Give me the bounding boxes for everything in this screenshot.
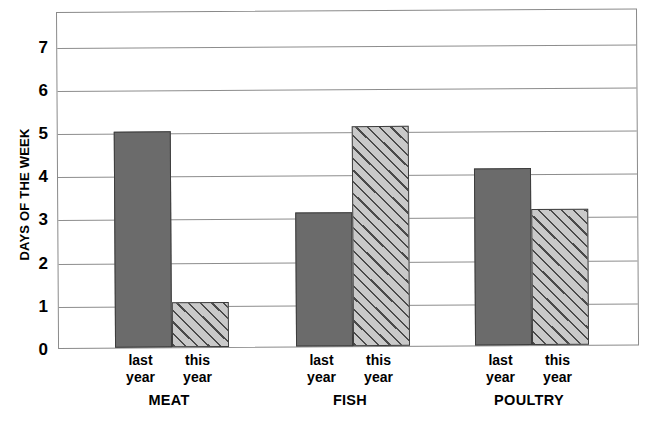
- x-label-line1: last: [472, 352, 529, 369]
- bar-poultry-this-year: [531, 209, 589, 345]
- x-label-line2: year: [472, 369, 529, 386]
- gridline-6: [57, 87, 636, 92]
- x-label-fish-this: thisyear: [350, 352, 407, 385]
- x-label-line2: year: [350, 369, 407, 386]
- x-label-line2: year: [169, 369, 226, 386]
- bar-meat-this-year: [172, 302, 229, 348]
- x-label-line2: year: [293, 369, 350, 386]
- plot-inner: [57, 9, 638, 348]
- y-tick-7: 7: [22, 38, 48, 55]
- x-label-line2: year: [529, 369, 586, 386]
- x-label-line1: last: [293, 352, 350, 369]
- y-tick-2: 2: [22, 254, 48, 271]
- bar-poultry-last-year: [474, 168, 532, 345]
- y-axis-tick-labels: 7 6 5 4 3 2 1 0: [22, 0, 48, 430]
- x-label-line1: last: [112, 352, 169, 369]
- y-tick-4: 4: [22, 168, 48, 185]
- x-label-line2: year: [112, 369, 169, 386]
- group-label-poultry: POULTRY: [472, 392, 586, 408]
- y-tick-6: 6: [22, 81, 48, 98]
- x-label-fish-last: lastyear: [293, 352, 350, 385]
- bar-chart: DAYS OF THE WEEK 7 6 5 4 3 2 1 0 lastyea…: [0, 0, 651, 430]
- group-label-fish: FISH: [293, 392, 407, 408]
- x-label-line1: this: [350, 352, 407, 369]
- x-label-line1: this: [529, 352, 586, 369]
- y-tick-0: 0: [22, 341, 48, 358]
- bar-fish-last-year: [295, 212, 353, 346]
- x-label-line1: this: [169, 352, 226, 369]
- x-label-meat-this: thisyear: [169, 352, 226, 385]
- group-label-meat: MEAT: [112, 392, 226, 408]
- plot-area: [56, 8, 639, 349]
- gridline-7: [57, 44, 636, 49]
- x-label-poultry-this: thisyear: [529, 352, 586, 385]
- x-axis-labels: lastyearthisyearlastyearthisyearlastyear…: [56, 352, 637, 430]
- y-tick-1: 1: [22, 297, 48, 314]
- bar-fish-this-year: [352, 126, 410, 347]
- y-tick-3: 3: [22, 211, 48, 228]
- bar-meat-last-year: [114, 131, 172, 347]
- y-tick-5: 5: [22, 124, 48, 141]
- x-label-poultry-last: lastyear: [472, 352, 529, 385]
- x-label-meat-last: lastyear: [112, 352, 169, 385]
